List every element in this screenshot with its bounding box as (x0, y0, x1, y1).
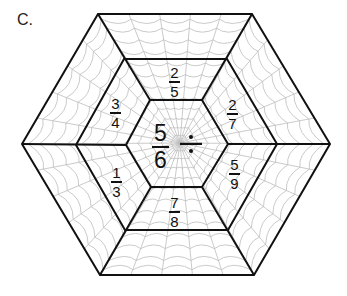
center-numerator: 5 (154, 122, 167, 145)
denominator: 4 (111, 115, 119, 130)
spider-web-hexagon-diagram (0, 0, 347, 296)
numerator: 5 (230, 157, 238, 172)
numerator: 7 (170, 195, 178, 210)
denominator: 5 (170, 84, 178, 99)
numerator: 2 (170, 65, 178, 80)
center-denominator: 6 (154, 149, 167, 172)
numerator: 1 (112, 165, 120, 180)
cell-upper-left: 3 4 (110, 96, 121, 130)
denominator: 8 (170, 214, 178, 229)
division-icon (179, 132, 203, 156)
numerator: 3 (111, 96, 119, 111)
cell-upper-right: 2 7 (227, 97, 238, 131)
spoke-top-left (98, 14, 150, 100)
center-fraction: 5 6 (152, 122, 169, 172)
cell-bottom: 7 8 (169, 195, 180, 229)
cell-top: 2 5 (169, 65, 180, 99)
cell-lower-left: 1 3 (111, 165, 122, 199)
spoke-left (22, 144, 126, 145)
numerator: 2 (228, 97, 236, 112)
denominator: 7 (228, 116, 236, 131)
cell-lower-right: 5 9 (229, 157, 240, 191)
denominator: 9 (230, 176, 238, 191)
denominator: 3 (112, 184, 120, 199)
